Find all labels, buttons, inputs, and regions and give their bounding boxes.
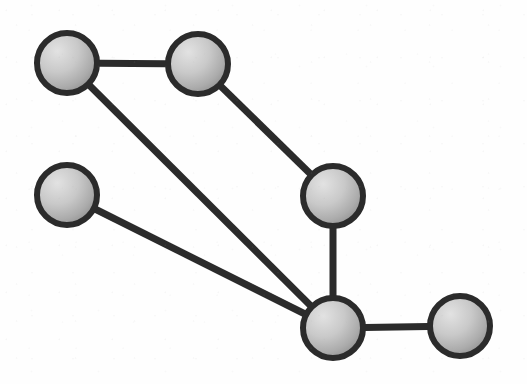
- graph-node[interactable]: [430, 296, 490, 356]
- node-layer: [37, 33, 490, 358]
- graph-node[interactable]: [37, 33, 97, 93]
- graph-node[interactable]: [37, 165, 97, 225]
- graph-canvas: [0, 0, 527, 384]
- graph-node[interactable]: [303, 298, 363, 358]
- graph-node[interactable]: [168, 34, 228, 94]
- graph-edge[interactable]: [67, 195, 333, 328]
- edge-layer: [67, 63, 460, 328]
- graph-node[interactable]: [303, 166, 363, 226]
- graph-diagram: [0, 0, 527, 384]
- graph-edge[interactable]: [67, 63, 333, 328]
